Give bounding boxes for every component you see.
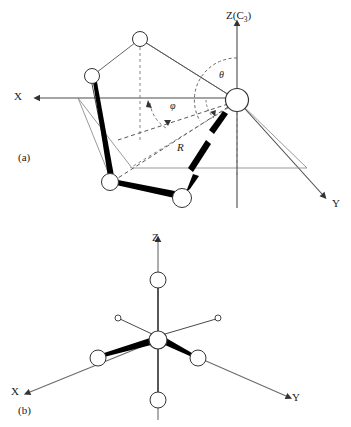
panel-a-atom-lower-right xyxy=(173,189,192,208)
panel-a-y-axis xyxy=(237,100,322,194)
panel-b-bond-wedge-x xyxy=(104,338,151,357)
panel-a-upper-frame xyxy=(92,39,237,100)
panel-a-theta-label: θ xyxy=(219,70,224,80)
panel-b-x-axis-label: X xyxy=(11,386,19,397)
panel-a-group xyxy=(40,26,322,208)
panel-a-atom-lower-left xyxy=(102,174,119,191)
panel-b-bond-small-left xyxy=(120,319,152,334)
panel-a-label: (a) xyxy=(18,152,30,163)
panel-b-y-axis-label: Y xyxy=(292,392,300,403)
panel-a-base-plane xyxy=(78,98,307,168)
panel-a-y-axis-label: Y xyxy=(332,198,340,209)
panel-a-bond-wedge-stub xyxy=(186,174,199,192)
panel-a-phi-arrow-left xyxy=(146,100,152,108)
panel-b-atom-z-down xyxy=(150,392,166,408)
panel-b-atom-x xyxy=(90,350,106,366)
panel-b-atom-small-right xyxy=(215,315,221,321)
panel-b-central-atom xyxy=(149,331,167,349)
panel-b-atom-z-up xyxy=(150,272,166,288)
panel-b-label: (b) xyxy=(18,405,31,416)
panel-b-group xyxy=(30,242,286,420)
panel-a-atom-upper-left xyxy=(85,69,100,84)
panel-b-z-axis-label: Z xyxy=(152,232,159,243)
panel-a-phi-arrow-right xyxy=(164,120,171,126)
panel-a-phi-label: φ xyxy=(170,101,176,111)
panel-b-atom-y xyxy=(190,350,206,366)
panel-a-phi-arc xyxy=(150,103,166,128)
panel-a-radius-label: R xyxy=(177,142,184,153)
figure-canvas xyxy=(0,0,351,427)
panel-b-bond-small-right xyxy=(165,319,216,334)
panel-a-atom-top xyxy=(133,32,148,47)
panel-b-bond-wedge-y xyxy=(165,338,192,357)
panel-a-bond-bold-segment-lower xyxy=(188,140,211,172)
panel-a-central-atom xyxy=(226,89,249,112)
figure-root: Z(C3) X Y θ φ R (a) Z X Y (b) xyxy=(0,0,351,427)
panel-a-bond-wedge-bottom xyxy=(116,180,180,199)
panel-a-z-axis-label: Z(C3) xyxy=(226,10,251,24)
panel-a-x-axis-label: X xyxy=(14,91,22,102)
panel-a-bond-bold-segment-upper xyxy=(209,111,228,134)
panel-b-atom-small-left xyxy=(115,315,121,321)
panel-a-bond-wedge-left xyxy=(93,82,114,177)
